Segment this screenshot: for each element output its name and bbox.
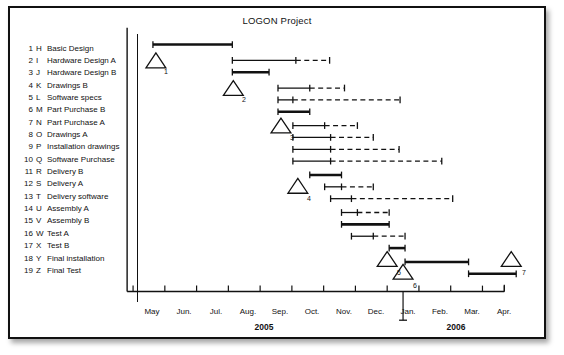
milestone-number: 2 bbox=[237, 96, 251, 103]
task-code: N bbox=[36, 118, 47, 127]
milestone-number: 3 bbox=[285, 134, 299, 141]
milestone-triangle[interactable] bbox=[288, 178, 308, 193]
task-code: P bbox=[36, 142, 47, 151]
task-code: L bbox=[36, 93, 47, 102]
gantt-bar[interactable] bbox=[342, 221, 390, 228]
task-label: Hardware Design A bbox=[47, 56, 116, 65]
task-label: Final Test bbox=[47, 266, 81, 275]
gantt-bar[interactable] bbox=[278, 108, 310, 115]
task-label: Drawings B bbox=[47, 81, 88, 90]
task-row[interactable]: 6MPart Purchase B bbox=[20, 104, 130, 116]
task-number: 19 bbox=[20, 266, 36, 275]
task-code: H bbox=[36, 44, 47, 53]
task-row[interactable]: 5LSoftware specs bbox=[20, 91, 130, 103]
task-code: J bbox=[36, 68, 47, 77]
gantt-bar[interactable] bbox=[278, 97, 400, 104]
gantt-bar[interactable] bbox=[342, 209, 390, 216]
gantt-bar[interactable] bbox=[331, 195, 453, 202]
task-row[interactable]: 18YFinal installation bbox=[20, 252, 130, 264]
task-code: X bbox=[36, 241, 47, 250]
task-number: 14 bbox=[20, 204, 36, 213]
task-row[interactable]: 11RDelivery B bbox=[20, 165, 130, 177]
milestone-triangle[interactable] bbox=[377, 252, 397, 267]
task-number: 7 bbox=[20, 118, 36, 127]
task-label: Basic Design bbox=[47, 44, 94, 53]
gantt-bar[interactable] bbox=[469, 270, 517, 277]
task-row[interactable]: 3JHardware Design B bbox=[20, 67, 130, 79]
task-row[interactable]: 10QSoftware Purchase bbox=[20, 153, 130, 165]
gantt-bar[interactable] bbox=[153, 41, 232, 48]
task-code: R bbox=[36, 167, 47, 176]
milestone-triangle[interactable] bbox=[223, 81, 243, 96]
chart-title: LOGON Project bbox=[10, 15, 544, 26]
task-number: 11 bbox=[20, 167, 36, 176]
task-row[interactable]: 17XTest B bbox=[20, 240, 130, 252]
task-label: Final installation bbox=[47, 254, 104, 263]
task-label: Installation drawings bbox=[47, 142, 119, 151]
task-row[interactable]: 14UAssembly A bbox=[20, 202, 130, 214]
task-number: 6 bbox=[20, 105, 36, 114]
year-label: 2006 bbox=[426, 322, 486, 332]
task-row[interactable]: 4KDrawings B bbox=[20, 79, 130, 91]
task-number: 12 bbox=[20, 179, 36, 188]
milestone-triangle[interactable] bbox=[501, 252, 521, 267]
gantt-bar[interactable] bbox=[293, 158, 442, 165]
gantt-bar[interactable] bbox=[293, 122, 358, 129]
gantt-bar[interactable] bbox=[278, 85, 345, 92]
task-row[interactable]: 2IHardware Design A bbox=[20, 54, 130, 66]
year-label: 2005 bbox=[234, 322, 294, 332]
task-label: Delivery A bbox=[47, 179, 83, 188]
task-row[interactable]: 9PInstallation drawings bbox=[20, 141, 130, 153]
task-label: Software Purchase bbox=[47, 155, 115, 164]
chart-frame: LOGON Project 1HBasic Design2IHardware D… bbox=[8, 6, 546, 339]
task-row[interactable]: 12SDelivery A bbox=[20, 178, 130, 190]
task-number: 18 bbox=[20, 254, 36, 263]
gantt-bar[interactable] bbox=[310, 172, 342, 179]
task-label: Assembly B bbox=[47, 216, 89, 225]
task-code: V bbox=[36, 216, 47, 225]
task-code: S bbox=[36, 179, 47, 188]
task-label: Part Purchase B bbox=[47, 105, 105, 114]
task-row[interactable]: 19ZFinal Test bbox=[20, 264, 130, 276]
task-row[interactable]: 15VAssembly B bbox=[20, 215, 130, 227]
task-number: 3 bbox=[20, 68, 36, 77]
gantt-bar[interactable] bbox=[232, 57, 329, 64]
task-code: W bbox=[36, 229, 47, 238]
task-code: T bbox=[36, 192, 47, 201]
task-row[interactable]: 1HBasic Design bbox=[20, 42, 130, 54]
task-label: Test B bbox=[47, 241, 69, 250]
task-label: Software specs bbox=[47, 93, 102, 102]
gantt-bar[interactable] bbox=[232, 69, 269, 76]
gantt-bar[interactable] bbox=[351, 233, 405, 240]
gantt-bar[interactable] bbox=[389, 245, 405, 252]
gantt-bar[interactable] bbox=[293, 146, 399, 153]
task-list-divider bbox=[137, 34, 138, 302]
milestone-number: 5 bbox=[392, 269, 406, 276]
milestone-number: 4 bbox=[302, 195, 316, 202]
task-number: 13 bbox=[20, 192, 36, 201]
task-row[interactable]: 8ODrawings A bbox=[20, 128, 130, 140]
milestone-number: 6 bbox=[408, 282, 422, 289]
task-label: Assembly A bbox=[47, 204, 89, 213]
gantt-bar[interactable] bbox=[293, 134, 373, 141]
task-number: 2 bbox=[20, 56, 36, 65]
task-row[interactable]: 16WTest A bbox=[20, 227, 130, 239]
task-number: 15 bbox=[20, 216, 36, 225]
task-number: 10 bbox=[20, 155, 36, 164]
task-row[interactable]: 7NPart Purchase A bbox=[20, 116, 130, 128]
task-label: Drawings A bbox=[47, 130, 87, 139]
milestone-number: 7 bbox=[517, 269, 531, 276]
task-label: Test A bbox=[47, 229, 69, 238]
gantt-bar[interactable] bbox=[325, 183, 374, 190]
month-label: Apr. bbox=[484, 307, 524, 316]
task-number: 5 bbox=[20, 93, 36, 102]
task-list: 1HBasic Design2IHardware Design A3JHardw… bbox=[20, 42, 130, 277]
milestone-triangle[interactable] bbox=[271, 118, 291, 133]
gantt-bar[interactable] bbox=[405, 259, 469, 266]
task-number: 9 bbox=[20, 142, 36, 151]
task-row[interactable]: 13TDelivery software bbox=[20, 190, 130, 202]
task-label: Hardware Design B bbox=[47, 68, 116, 77]
milestone-triangle[interactable] bbox=[146, 53, 166, 68]
milestone-number: 1 bbox=[159, 68, 173, 75]
task-label: Delivery software bbox=[47, 192, 108, 201]
